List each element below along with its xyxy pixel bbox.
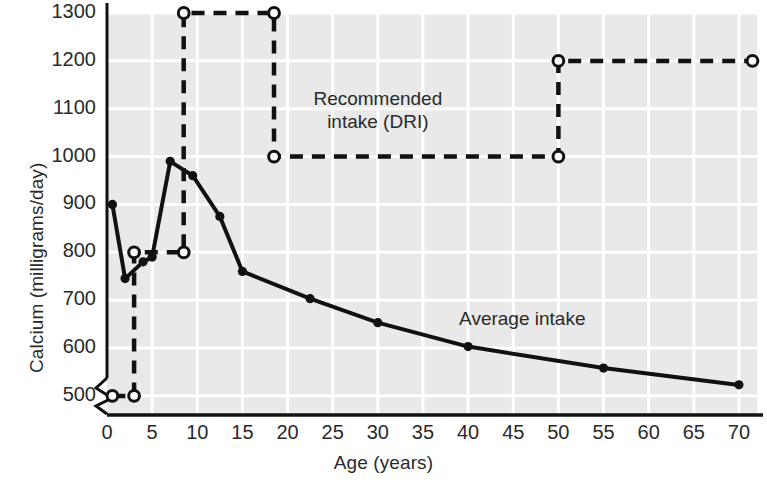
x-tick-label: 70 bbox=[709, 421, 767, 444]
calcium-intake-chart: Calcium (milligrams/day) Age (years) 500… bbox=[0, 0, 767, 480]
dri-annotation-line1: Recommended bbox=[268, 87, 488, 110]
y-tick-label: 1200 bbox=[28, 48, 96, 71]
y-tick-label: 1000 bbox=[28, 144, 96, 167]
plot-area bbox=[0, 0, 767, 480]
dri-annotation: Recommended intake (DRI) bbox=[268, 87, 488, 133]
dri-annotation-line2: intake (DRI) bbox=[268, 110, 488, 133]
plot-background bbox=[107, 13, 757, 415]
y-tick-label: 1100 bbox=[28, 96, 96, 119]
y-tick-label: 600 bbox=[28, 335, 96, 358]
y-tick-label: 500 bbox=[28, 383, 96, 406]
y-tick-label: 800 bbox=[28, 239, 96, 262]
y-tick-label: 900 bbox=[28, 191, 96, 214]
average-intake-annotation: Average intake bbox=[432, 307, 612, 330]
y-tick-label: 1300 bbox=[28, 0, 96, 23]
y-tick-label: 700 bbox=[28, 287, 96, 310]
